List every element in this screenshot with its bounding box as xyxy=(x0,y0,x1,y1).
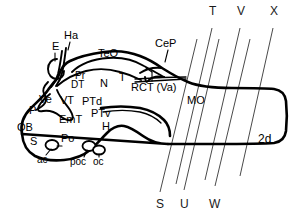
region-label-RCT: RCT (Va) xyxy=(131,82,176,93)
section-plane-label-W: W xyxy=(209,198,220,210)
region-label-S: S xyxy=(30,136,37,147)
section-plane-label-X: X xyxy=(270,5,278,17)
brain-outline-svg xyxy=(0,0,305,222)
section-plane-lines xyxy=(160,28,273,192)
region-label-EmT: EmT xyxy=(59,114,82,125)
section-plane-label-S: S xyxy=(156,198,164,210)
region-label-MO: MO xyxy=(187,95,205,106)
region-label-2d: 2d xyxy=(258,133,271,145)
leader-Ha xyxy=(68,42,70,50)
region-label-Ve: Ve xyxy=(39,94,52,105)
section-plane-label-U: U xyxy=(180,198,189,210)
region-label-OB: OB xyxy=(17,122,33,133)
region-label-poc: poc xyxy=(70,157,86,167)
section-plane-line-X xyxy=(240,28,273,176)
optic-chiasm-nucleus xyxy=(93,146,105,155)
region-label-ac: ac xyxy=(37,155,48,165)
region-label-DT: DT xyxy=(71,80,84,90)
region-label-P: P xyxy=(29,105,36,116)
section-plane-label-T: T xyxy=(209,5,216,17)
anterior-commissure-nucleus xyxy=(46,140,59,150)
diencephalon-dorsal-boundary xyxy=(57,69,141,86)
region-label-N: N xyxy=(100,78,108,89)
region-label-VT: VT xyxy=(60,95,74,106)
region-label-PTd: PTd xyxy=(82,96,102,107)
ventral-nuclei xyxy=(46,140,106,155)
region-label-Ha: Ha xyxy=(64,30,78,41)
brain-diagram-figure: E Ha TeO CeP Pr DT N T RCT (Va) Ve VT PT… xyxy=(0,0,305,222)
region-label-Po: Po xyxy=(61,133,74,144)
region-label-CeP: CeP xyxy=(155,38,176,49)
region-label-oc: oc xyxy=(93,157,104,167)
region-label-PTv: PTv xyxy=(91,108,111,119)
region-label-H: H xyxy=(102,121,110,132)
region-label-E: E xyxy=(52,41,59,52)
section-plane-label-V: V xyxy=(237,5,245,17)
leader-CeP xyxy=(165,50,168,62)
region-label-TeO: TeO xyxy=(98,48,118,59)
region-label-T: T xyxy=(119,72,126,83)
section-plane-line-U xyxy=(184,39,219,190)
